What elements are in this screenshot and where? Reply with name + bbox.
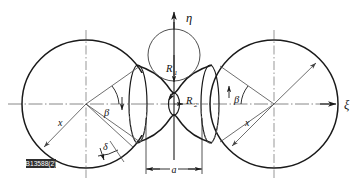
label-delta: δ [103,141,108,152]
eta-axis-label: η [186,11,192,25]
radius-arrow-right [274,63,316,104]
left-ray-upper [86,66,140,104]
figure-id-stamp: B13588(2) [26,159,57,168]
label-dimension-a: a [172,164,177,175]
diagram-svg: B13588(2) η ξ R 1 R 2 β β δ x x a [0,0,359,186]
beta-arc-right [241,86,248,104]
beta-arc-left [112,86,119,104]
left-ray-lower [86,104,140,142]
label-x-left: x [57,117,63,128]
label-R2-text: R [185,95,193,106]
label-R1-sub: 1 [174,69,178,77]
radius-arrow-left [44,104,86,147]
right-ray-upper [220,66,274,104]
label-beta-right: β [233,94,240,105]
label-R1-text: R [165,63,173,74]
label-R2-sub: 2 [194,101,198,109]
label-x-right: x [244,117,250,128]
radius-arrow-right-lower [232,104,274,146]
delta-ray [110,141,124,162]
figure-canvas: B13588(2) η ξ R 1 R 2 β β δ x x a [0,0,359,186]
stamp-text: B13588(2) [26,160,57,168]
label-beta-left: β [103,107,110,118]
xi-axis-label: ξ [344,98,350,112]
